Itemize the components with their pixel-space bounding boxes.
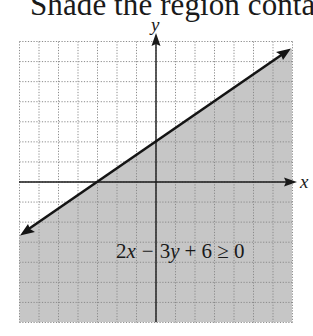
y-axis-label: y bbox=[149, 14, 160, 35]
x-axis-label: x bbox=[299, 171, 309, 192]
coordinate-plane: x y 2x−3y+ 6 ≥ 0 bbox=[0, 0, 313, 336]
graph-figure: Shade the region containing x y 2x− bbox=[0, 0, 313, 336]
